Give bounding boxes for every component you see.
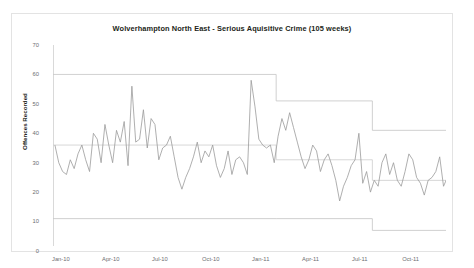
y-tick-label: 30 [17,160,39,166]
control-limit-lines [53,74,446,230]
chart-svg [42,32,446,251]
data-series-lines [55,80,446,201]
x-tick-label: Apr-10 [102,256,119,262]
x-tick-label: Jul-11 [352,256,367,262]
y-tick-label: 10 [17,218,39,224]
x-tick-label: Jan-10 [52,256,70,262]
y-tick-label: 70 [17,42,39,48]
x-tick-label: Jul-10 [152,256,168,262]
control-limit-line [53,145,446,180]
y-tick-label: 40 [17,130,39,136]
y-axis-label: Offences Recorded [21,77,28,167]
plot-area [42,32,446,251]
y-tick-label: 20 [17,189,39,195]
data-line [55,80,446,201]
x-tick-label: Oct-10 [202,256,219,262]
y-tick-label: 50 [17,101,39,107]
y-tick-label: 60 [17,71,39,77]
x-tick-label: Jan-11 [252,256,269,262]
x-tick-label: Apr-11 [302,256,319,262]
y-tick-label: 0 [17,248,39,254]
chart-frame: Wolverhampton North East - Serious Aquis… [11,13,453,252]
x-tick-label: Oct-11 [402,256,419,262]
control-limit-line [53,219,446,231]
